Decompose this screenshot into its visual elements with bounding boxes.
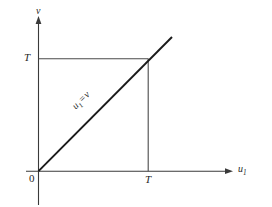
y-axis-label: v (36, 6, 40, 16)
x-axis-arrowhead-icon (225, 168, 233, 174)
y-axis-arrowhead-icon (36, 16, 42, 24)
origin-label: 0 (29, 173, 35, 184)
x-axis-label: u1 (238, 164, 247, 177)
x-axis-tick-label-T: T (145, 174, 151, 185)
figure-container: v u1 T T 0 u1=v (0, 0, 272, 207)
y-axis-tick-label-T: T (24, 52, 30, 63)
diagonal-identity-line (39, 37, 173, 171)
diagram-canvas (0, 0, 272, 207)
x-axis-label-subscript: 1 (243, 169, 247, 177)
